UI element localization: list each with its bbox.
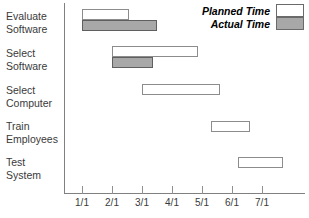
bar-planned-select-software[interactable]	[112, 46, 198, 57]
bar-planned-train-employees[interactable]	[211, 121, 250, 132]
legend-swatch-planned-time	[276, 4, 304, 17]
x-tick-6	[232, 186, 233, 194]
row-label-select-computer: Select Computer	[6, 84, 64, 109]
x-tick-7	[262, 186, 263, 194]
row-label-line2: System	[6, 169, 64, 182]
x-tick-1	[82, 186, 83, 194]
x-tick-label-1: 1/1	[67, 197, 97, 208]
x-tick-label-3: 3/1	[127, 197, 157, 208]
bar-actual-select-software[interactable]	[112, 57, 153, 68]
row-label-test-system: Test System	[6, 156, 64, 181]
x-tick-3	[142, 186, 143, 194]
x-tick-label-2: 2/1	[97, 197, 127, 208]
x-tick-5	[202, 186, 203, 194]
row-label-train-employees: Train Employees	[6, 120, 64, 145]
bar-planned-evaluate-software[interactable]	[82, 9, 129, 20]
x-tick-label-4: 4/1	[157, 197, 187, 208]
x-tick-2	[112, 186, 113, 194]
row-label-line2: Software	[6, 60, 64, 73]
x-tick-label-6: 6/1	[217, 197, 247, 208]
row-label-line1: Test	[6, 156, 64, 169]
row-label-line1: Evaluate	[6, 10, 64, 23]
row-label-line2: Computer	[6, 97, 64, 110]
legend-label-planned-time: Planned Time	[192, 5, 270, 17]
row-label-select-software: Select Software	[6, 47, 64, 72]
x-tick-label-7: 7/1	[247, 197, 277, 208]
y-axis-line	[64, 3, 65, 193]
legend-label-actual-time: Actual Time	[192, 18, 270, 30]
row-label-line1: Train	[6, 120, 64, 133]
legend-swatch-actual-time	[276, 17, 304, 30]
bar-planned-test-system[interactable]	[238, 157, 283, 168]
row-label-evaluate-software: Evaluate Software	[6, 10, 64, 35]
x-tick-label-5: 5/1	[187, 197, 217, 208]
bar-planned-select-computer[interactable]	[142, 84, 220, 95]
bar-actual-evaluate-software[interactable]	[82, 20, 157, 31]
row-label-line2: Software	[6, 23, 64, 36]
x-axis-line	[64, 193, 305, 194]
legend: Planned Time Actual Time	[192, 4, 304, 34]
row-label-line2: Employees	[6, 133, 64, 146]
x-tick-4	[172, 186, 173, 194]
row-label-line1: Select	[6, 84, 64, 97]
row-label-line1: Select	[6, 47, 64, 60]
gantt-chart: Evaluate Software Select Software Select…	[0, 0, 309, 218]
